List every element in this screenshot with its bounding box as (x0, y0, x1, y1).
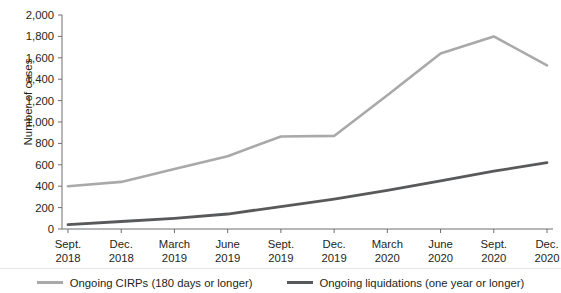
axis-lines (62, 15, 553, 229)
legend-label: Ongoing CIRPs (180 days or longer) (70, 277, 253, 289)
x-axis-tick-label: Dec.2020 (512, 238, 561, 265)
series-line (68, 163, 547, 225)
x-axis-tick-label-line: 2020 (512, 252, 561, 266)
legend-divider (0, 268, 561, 269)
x-axis-tick-label-line: Dec. (512, 238, 561, 252)
legend-swatch (37, 281, 63, 284)
plot-area: Number of cases 2,0001,8001,6001,4001,20… (0, 0, 561, 262)
legend-item[interactable]: Ongoing CIRPs (180 days or longer) (37, 277, 253, 289)
chart-legend: Ongoing CIRPs (180 days or longer)Ongoin… (0, 272, 561, 293)
legend-label: Ongoing liquidations (one year or longer… (320, 277, 525, 289)
plot-svg (0, 0, 561, 262)
x-axis-tick-labels: Sept.2018Dec.2018March2019June2019Sept.2… (0, 229, 561, 269)
chart-figure: Number of cases 2,0001,8001,6001,4001,20… (0, 0, 561, 293)
series-lines (68, 36, 547, 224)
series-line (68, 36, 547, 186)
legend-item[interactable]: Ongoing liquidations (one year or longer… (287, 277, 525, 289)
legend-swatch (287, 281, 313, 284)
y-axis-ticks (58, 15, 62, 229)
